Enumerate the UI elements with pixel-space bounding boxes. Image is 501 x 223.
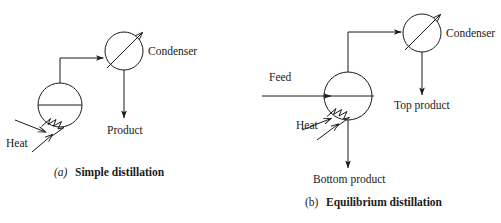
- top-product-label: Top product: [394, 99, 451, 112]
- caption-text-b: Equilibrium distillation: [326, 196, 443, 209]
- heat-label-equilibrium: Heat: [296, 119, 319, 131]
- distillation-figure: Condenser Product Heat (a) Simple distil…: [0, 0, 501, 223]
- condenser-diagonal-arrow-icon: [107, 33, 143, 69]
- vapour-line-arrow-icon: [60, 58, 104, 83]
- caption-text-a: Simple distillation: [75, 166, 165, 179]
- condenser-simple: [105, 32, 143, 70]
- heat-bolt-equilibrium-icon: [327, 109, 350, 127]
- condenser-equilibrium: [403, 14, 441, 52]
- heat-label-simple: Heat: [6, 137, 29, 149]
- still-pot-simple: [38, 83, 82, 127]
- panel-simple-distillation: Condenser Product Heat (a) Simple distil…: [6, 32, 197, 179]
- heat-arrow-lower-equilibrium-icon: [317, 124, 339, 140]
- vapour-stream-simple: [60, 58, 104, 83]
- feed-label: Feed: [269, 71, 292, 83]
- product-label: Product: [107, 124, 144, 136]
- heat-arrow-upper-icon: [15, 120, 46, 132]
- vapour-stream-equilibrium: [348, 32, 402, 72]
- condenser-label-equilibrium: Condenser: [446, 27, 495, 39]
- heat-arrow-lower-icon: [32, 135, 53, 153]
- condenser-label-simple: Condenser: [148, 45, 197, 57]
- panel-equilibrium-distillation: Condenser Feed Heat Top product Bottom p…: [262, 14, 495, 209]
- vapour-line-arrow-equilibrium-icon: [348, 32, 402, 72]
- figure-root: Condenser Product Heat (a) Simple distil…: [0, 0, 501, 223]
- bottom-product-label: Bottom product: [313, 173, 386, 186]
- condenser-diagonal-arrow-equilibrium-icon: [405, 15, 441, 51]
- caption-index-b: (b): [305, 196, 319, 209]
- caption-index-a: (a): [54, 166, 68, 179]
